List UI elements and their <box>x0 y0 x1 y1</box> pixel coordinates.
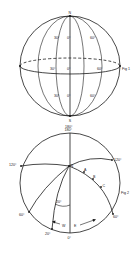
fig2-arc-bottom-left-20 <box>52 166 69 229</box>
fig2-endpoint-right-120 <box>111 159 113 161</box>
fig1-label-mid-right: 60° <box>97 67 103 71</box>
fig2-point-b-label: B <box>93 175 96 179</box>
fig2-point-c-label: C <box>103 184 106 188</box>
fig2-lower-right-label: 60° <box>113 215 119 219</box>
fig1-label-mid-left: 30° <box>50 67 56 71</box>
fig2-arc-left-120 <box>21 164 69 166</box>
fig1-equator-point-right <box>119 65 121 67</box>
fig2-point-a-label: A <box>84 168 87 172</box>
fig1-north-pole <box>69 15 71 17</box>
fig2-endpoint-bottom-left-20 <box>51 228 53 230</box>
fig2-left-label: 120° <box>9 163 17 167</box>
fig2-angle-arc <box>55 204 70 206</box>
fig1-south-pole <box>69 115 71 117</box>
figures-canvas: N S 180° 30° 0° 60° 30° 0° 60° 30° 0° 60… <box>0 0 140 259</box>
fig2-pole-label: N <box>71 164 74 168</box>
fig1-label-upper-center: 0° <box>67 36 71 40</box>
fig1-north-label: N <box>69 11 72 15</box>
fig2-angle-label: 20° <box>56 200 62 204</box>
fig1-caption: Fig 1 <box>122 67 130 71</box>
fig2-east-arrow-icon <box>80 219 96 225</box>
fig2-endpoint-lower-left-60 <box>28 211 30 213</box>
fig2-arc-right-120 <box>69 158 112 166</box>
fig1-label-mid-center: 0° <box>67 67 71 71</box>
fig2-east-label: E <box>74 224 77 228</box>
fig2-lower-left-label: 60° <box>19 213 25 217</box>
fig2-projection: 180° 0° 120° 120° 60° 60° 20° 20° N A B … <box>9 128 129 240</box>
fig2-arc-lower-left-60 <box>29 166 69 212</box>
fig1-equator-point-left <box>19 65 21 67</box>
fig2-caption: Fig 2 <box>121 191 129 195</box>
fig2-top-label: 180° <box>65 128 73 132</box>
fig2-west-arrow-icon <box>52 221 60 224</box>
fig2-bottom-left-label: 20° <box>45 232 51 236</box>
fig1-label-lower-left: 30° <box>54 94 60 98</box>
fig2-endpoint-left-120 <box>20 165 22 167</box>
fig1-label-upper-right: 60° <box>90 36 96 40</box>
fig1-globe: N S 180° 30° 0° 60° 30° 0° 60° 30° 0° 60… <box>19 11 130 130</box>
fig2-arc-abc-60 <box>69 166 113 214</box>
fig1-label-upper-left: 30° <box>54 36 60 40</box>
fig2-bottom-label: 0° <box>68 236 72 240</box>
fig1-label-lower-center: 0° <box>67 94 71 98</box>
fig2-right-label: 120° <box>114 158 122 162</box>
fig2-west-label: W <box>62 224 66 228</box>
fig1-south-label: S <box>69 119 72 123</box>
fig1-label-lower-right: 60° <box>90 94 96 98</box>
